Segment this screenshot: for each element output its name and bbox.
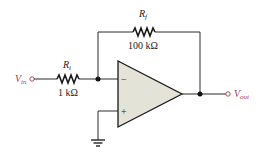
inverting-amplifier-diagram: − + Ri 1 kΩ Rf 100 kΩ Vin Vout bbox=[0, 0, 258, 160]
feedback-resistor bbox=[133, 28, 155, 36]
output-label: Vout bbox=[234, 88, 250, 101]
ground-icon bbox=[91, 140, 105, 146]
inverting-input-sign: − bbox=[121, 74, 127, 85]
input-terminal bbox=[30, 77, 34, 81]
input-resistor bbox=[57, 75, 79, 83]
noninverting-input-sign: + bbox=[121, 106, 127, 117]
output-terminal bbox=[226, 92, 230, 96]
input-label: Vin bbox=[15, 73, 27, 86]
feedback-resistor-label: Rf bbox=[138, 8, 148, 21]
input-resistor-value: 1 kΩ bbox=[58, 87, 78, 98]
input-resistor-label: Ri bbox=[62, 59, 71, 72]
opamp-triangle bbox=[118, 61, 182, 127]
output-node-junction bbox=[198, 92, 203, 97]
feedback-resistor-value: 100 kΩ bbox=[128, 40, 158, 51]
